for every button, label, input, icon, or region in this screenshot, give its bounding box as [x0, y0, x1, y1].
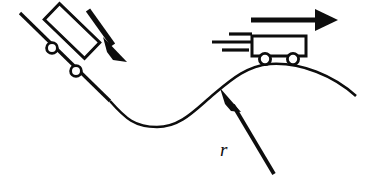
- horizontal-velocity-arrow: [251, 9, 338, 31]
- cart-on-incline-wheel-front: [47, 43, 58, 54]
- radius-pointer-arrow: [220, 88, 274, 174]
- diagram-canvas: r: [0, 0, 367, 183]
- cart-on-crest-wheel-front: [287, 53, 298, 64]
- curved-track-path: [110, 64, 356, 127]
- physics-diagram: r: [0, 0, 367, 183]
- radius-label: r: [220, 139, 228, 160]
- downhill-motion-arrow-shaft: [88, 10, 113, 45]
- radius-pointer-arrow-shaft: [233, 105, 274, 174]
- cart-on-crest-wheel-rear: [259, 53, 270, 64]
- cart-on-crest-body: [252, 36, 306, 56]
- radius-pointer-arrow-head: [220, 88, 241, 112]
- motion-speed-lines: [212, 34, 252, 50]
- downhill-motion-arrow-head: [103, 37, 127, 62]
- cart-on-incline-wheel-rear: [71, 66, 82, 77]
- cart-on-crest: [252, 36, 306, 65]
- horizontal-velocity-arrow-head: [315, 9, 338, 31]
